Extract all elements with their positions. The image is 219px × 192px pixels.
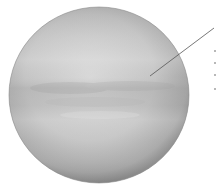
planet-illustration (0, 0, 219, 192)
label-tick (214, 50, 216, 52)
label-tick (214, 88, 216, 90)
label-tick (214, 74, 216, 76)
label-ticks (214, 0, 219, 192)
label-tick (214, 62, 216, 64)
planet-figure (0, 0, 219, 192)
